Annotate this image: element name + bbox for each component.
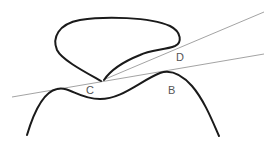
point-label-d: D [176, 51, 184, 63]
diagram-canvas: C D B [0, 0, 274, 147]
lower-tangent-line [12, 54, 264, 97]
point-label-b: B [168, 84, 175, 96]
upper-tangent-line [103, 12, 264, 80]
lower-curve [27, 72, 219, 136]
point-label-c: C [86, 84, 94, 96]
